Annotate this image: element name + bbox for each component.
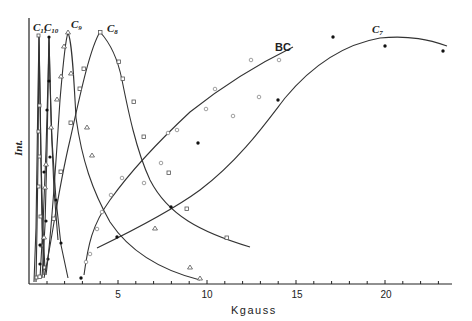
curve-label-c10: C10 (44, 21, 59, 35)
x-tick-label-20: 20 (380, 289, 392, 300)
x-tick-label-15: 15 (291, 289, 303, 300)
curve-c8 (38, 31, 250, 279)
x-tick-label-10: 10 (201, 289, 213, 300)
curve-label-c9: C9 (71, 18, 82, 32)
chart-canvas: 5 10 15 20 Kgauss Int. C11 C10 (0, 0, 472, 321)
x-tick-label-5: 5 (115, 289, 121, 300)
curve-c7 (79, 35, 447, 279)
curve-label-c8: C8 (107, 22, 118, 36)
y-axis-label: Int. (12, 140, 24, 157)
curve-c9 (42, 30, 203, 280)
curve-bc (84, 47, 293, 275)
x-axis-label: Kgauss (231, 304, 277, 316)
curve-label-c7: C7 (372, 23, 383, 37)
curve-label-bc: BC (275, 41, 291, 53)
